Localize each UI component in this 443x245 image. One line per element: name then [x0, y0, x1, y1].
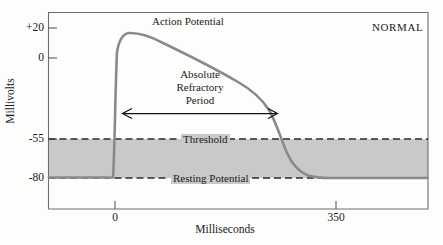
- refractory-period-arrow: [123, 109, 278, 119]
- refractory-period-line-2: Refractory: [150, 81, 250, 94]
- y-axis-title: Millivolts: [4, 71, 16, 131]
- resting-potential-label: Resting Potential: [171, 173, 250, 184]
- action-potential-figure: +20 0 -55 -80 0 350 Millivolts Milliseco…: [0, 0, 443, 245]
- x-tick-label-350: 350: [320, 212, 352, 224]
- refractory-period-line-1: Absolute: [150, 68, 250, 81]
- y-tick-label-minus55: -55: [14, 133, 44, 145]
- y-tick-label-minus80: -80: [14, 172, 44, 184]
- refractory-period-label: Absolute Refractory Period: [150, 68, 250, 107]
- threshold-label: Threshold: [181, 134, 230, 145]
- chart-title: Action Potential: [152, 16, 224, 27]
- x-axis-ticks: [115, 201, 336, 209]
- condition-label: NORMAL: [372, 22, 423, 33]
- y-tick-label-plus20: +20: [18, 22, 44, 34]
- chart-canvas: [0, 0, 443, 245]
- refractory-period-line-3: Period: [150, 94, 250, 107]
- y-tick-label-zero: 0: [18, 52, 44, 64]
- x-tick-label-0: 0: [103, 212, 127, 224]
- x-axis-title: Milliseconds: [170, 224, 280, 236]
